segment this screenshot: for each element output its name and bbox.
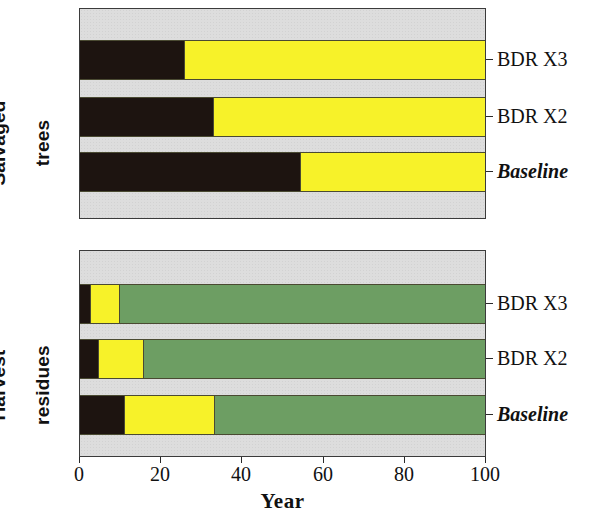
panel-salvaged-trees <box>79 8 486 219</box>
x-axis-tick-label-100: 100 <box>470 463 500 486</box>
bar-salvaged-trees-baseline[interactable] <box>79 152 486 192</box>
figure-canvas: Salvaged trees BDR X3 BDR X2 Baseline Ha… <box>0 0 610 517</box>
bar-segment-black <box>79 97 214 137</box>
y-axis-group-label-salvaged-trees-line1: Salvaged <box>0 83 10 203</box>
bar-segment-yellow <box>300 152 486 192</box>
category-label-salvaged-trees-baseline: Baseline <box>497 160 568 183</box>
x-axis-title: Year <box>205 489 360 514</box>
y-axis-group-label-harvest-residues-line2: residues <box>32 325 54 445</box>
x-axis-tick-label-40: 40 <box>231 463 251 486</box>
category-label-harvest-residues-bdr-x2: BDR X2 <box>497 347 568 370</box>
bar-segment-yellow <box>124 395 215 435</box>
tick-harvest-residues-baseline <box>486 414 493 415</box>
bar-harvest-residues-bdr-x2[interactable] <box>79 339 486 379</box>
x-axis-tick-label-80: 80 <box>394 463 414 486</box>
tick-salvaged-trees-bdr-x2 <box>486 116 493 117</box>
y-axis-group-label-salvaged-trees: Salvaged trees <box>0 83 76 203</box>
bar-salvaged-trees-bdr-x2[interactable] <box>79 97 486 137</box>
tick-salvaged-trees-baseline <box>486 171 493 172</box>
category-label-salvaged-trees-bdr-x2: BDR X2 <box>497 105 568 128</box>
bar-segment-black <box>79 395 125 435</box>
x-axis-tick-label-20: 20 <box>150 463 170 486</box>
bar-segment-black <box>79 339 99 379</box>
y-axis-group-label-harvest-residues-line1: Harvest <box>0 325 10 445</box>
bar-segment-yellow <box>213 97 486 137</box>
category-label-harvest-residues-bdr-x3: BDR X3 <box>497 292 568 315</box>
bar-salvaged-trees-bdr-x3[interactable] <box>79 40 486 80</box>
category-label-harvest-residues-baseline: Baseline <box>497 403 568 426</box>
y-axis-group-label-harvest-residues: Harvest residues <box>0 325 76 445</box>
x-axis-tick-label-0: 0 <box>74 463 84 486</box>
bar-segment-yellow <box>90 284 120 324</box>
tick-harvest-residues-bdr-x3 <box>486 303 493 304</box>
bar-segment-green <box>214 395 486 435</box>
tick-salvaged-trees-bdr-x3 <box>486 59 493 60</box>
bar-segment-green <box>119 284 486 324</box>
bar-segment-yellow <box>98 339 144 379</box>
bar-segment-green <box>143 339 486 379</box>
bar-segment-yellow <box>184 40 486 80</box>
tick-harvest-residues-bdr-x2 <box>486 358 493 359</box>
bar-segment-black <box>79 152 301 192</box>
panel-harvest-residues <box>79 250 486 457</box>
bar-segment-black <box>79 40 185 80</box>
category-label-salvaged-trees-bdr-x3: BDR X3 <box>497 48 568 71</box>
bar-harvest-residues-baseline[interactable] <box>79 395 486 435</box>
bar-harvest-residues-bdr-x3[interactable] <box>79 284 486 324</box>
x-axis-tick-label-60: 60 <box>313 463 333 486</box>
y-axis-group-label-salvaged-trees-line2: trees <box>32 83 54 203</box>
